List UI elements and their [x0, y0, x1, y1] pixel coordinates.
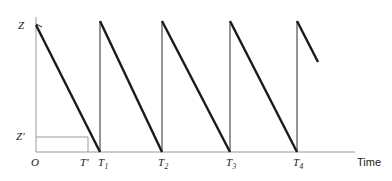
- sawtooth-chart-figure: Z Z' O T' T1 T2 T3 T4 Time: [0, 0, 392, 181]
- x-axis-title: Time: [357, 157, 381, 168]
- ramp-segment-1: [36, 25, 100, 152]
- ramp-segment-5-truncated: [297, 21, 318, 62]
- y-axis-label-z-prime: Z': [16, 131, 24, 142]
- x-axis-label-t4-subscript: 4: [299, 162, 303, 171]
- x-axis-label-t1: T1: [98, 157, 108, 168]
- x-axis-label-t2-subscript: 2: [164, 162, 168, 171]
- sawtooth-waveform: [36, 21, 318, 152]
- x-axis-label-t2: T2: [158, 157, 168, 168]
- plot-canvas: [0, 0, 392, 181]
- x-axis-label-t-prime: T': [80, 157, 88, 168]
- x-axis-label-t3-subscript: 3: [232, 162, 236, 171]
- ramp-segment-3: [162, 21, 230, 152]
- y-axis-label-z-prime-mark: ': [22, 130, 24, 142]
- x-axis-label-t4: T4: [293, 157, 303, 168]
- y-axis-label-z: Z: [18, 20, 24, 31]
- y-axis-label-z-text: Z: [18, 19, 24, 31]
- x-axis-label-t1-subscript: 1: [104, 162, 108, 171]
- x-axis-label-origin-text: O: [31, 156, 39, 168]
- ramp-segment-2: [100, 21, 162, 152]
- x-axis-label-t3: T3: [226, 157, 236, 168]
- x-axis-label-t-prime-mark: ': [86, 156, 88, 168]
- x-axis-label-origin: O: [31, 157, 39, 168]
- ramp-segment-4: [230, 21, 297, 152]
